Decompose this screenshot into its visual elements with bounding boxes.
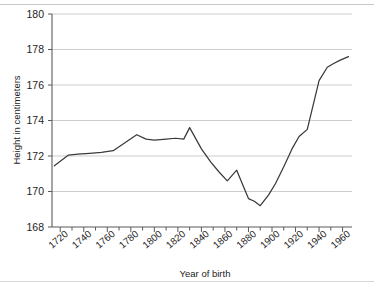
xtick-label-1960: 1960 (328, 228, 352, 251)
xtick-label-1780: 1780 (117, 228, 141, 251)
ytick-label-178: 178 (26, 43, 44, 55)
xtick-label-1860: 1860 (211, 228, 235, 251)
ytick-label-172: 172 (26, 150, 44, 162)
xtick-label-1800: 1800 (140, 228, 164, 251)
ytick-label-180: 180 (26, 8, 44, 20)
y-gridlines (52, 14, 352, 227)
ytick-label-176: 176 (26, 79, 44, 91)
xtick-label-1900: 1900 (258, 228, 282, 251)
x-axis-title: Year of birth (180, 268, 231, 279)
xtick-label-1940: 1940 (305, 228, 329, 251)
x-axis-tick-labels: 1720174017601780180018201840186018801900… (46, 228, 353, 251)
xtick-label-1740: 1740 (70, 228, 94, 251)
xtick-label-1820: 1820 (164, 228, 188, 251)
top-divider-rule (0, 4, 374, 5)
y-tick-marks (48, 14, 52, 227)
height-series-line (54, 57, 348, 206)
xtick-label-1840: 1840 (187, 228, 211, 251)
ytick-label-168: 168 (26, 221, 44, 233)
y-axis-title: Height in centimeters (11, 75, 22, 164)
xtick-label-1760: 1760 (93, 228, 117, 251)
line-chart-plot: 168170172174176178180 172017401760178018… (0, 0, 374, 284)
chart-figure: 168170172174176178180 172017401760178018… (0, 0, 374, 284)
ytick-label-174: 174 (26, 114, 44, 126)
ytick-label-170: 170 (26, 185, 44, 197)
xtick-label-1920: 1920 (281, 228, 305, 251)
xtick-label-1880: 1880 (234, 228, 258, 251)
y-axis-tick-labels: 168170172174176178180 (26, 8, 44, 233)
bottom-divider-rule (0, 281, 374, 282)
xtick-label-1720: 1720 (46, 228, 70, 251)
